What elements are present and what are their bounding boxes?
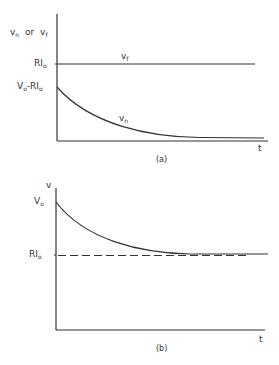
panel-a-tick-label-ri: RIo <box>34 59 47 69</box>
panel-a-y-axis-label: vn or vf <box>10 28 48 38</box>
label-sub-f: f <box>45 31 47 38</box>
panel-b-v-curve <box>56 202 268 254</box>
panel-a-vn-label: vn <box>119 114 128 124</box>
panel-b-tick-label-v0: Vo <box>34 197 44 207</box>
panel-b-caption: (b) <box>156 345 167 353</box>
panel-a-caption: (a) <box>156 156 167 164</box>
panel-b-tick-label-ri: RIo <box>29 250 42 260</box>
label-minus-ri: -RI <box>27 81 39 91</box>
panel-a-tick-label-v0-minus-ri: Vo-RIo <box>17 82 43 92</box>
label-sub-n: n <box>124 117 128 124</box>
panel-b-y-axis-label: v <box>46 181 51 190</box>
panel-b-x-axis-label: t <box>259 335 263 344</box>
label-sub-o: o <box>40 200 44 207</box>
panel-a-graph <box>55 14 268 141</box>
label-sub-n: n <box>15 31 19 38</box>
label-sub-f: f <box>126 55 128 62</box>
label-ri: RI <box>29 249 38 259</box>
label-sub-o: o <box>39 85 43 92</box>
label-or: or <box>25 27 34 37</box>
panel-a-vn-curve <box>57 87 264 138</box>
label-ri: RI <box>34 58 43 68</box>
panel-a-vf-label: vf <box>121 52 128 62</box>
panel-b-graph <box>54 188 268 330</box>
diagram-canvas <box>0 0 279 365</box>
panel-a-x-axis-label: t <box>258 144 262 153</box>
label-sub-o: o <box>38 253 42 260</box>
label-sub-o: o <box>43 62 47 69</box>
